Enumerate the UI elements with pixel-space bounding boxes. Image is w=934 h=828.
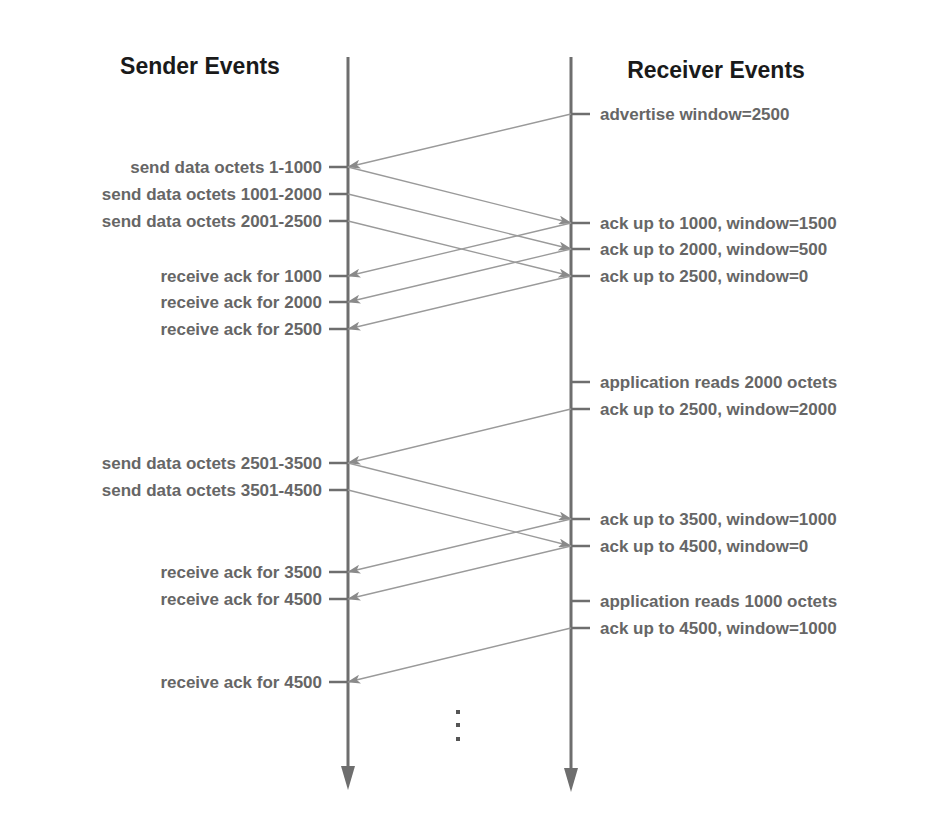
sender-event-label: send data octets 3501-4500 — [102, 481, 322, 500]
ack-arrow — [348, 409, 571, 463]
receiver-event-label: ack up to 3500, window=1000 — [600, 510, 837, 529]
receiver-event-label: application reads 2000 octets — [600, 373, 837, 392]
sender-event-label: receive ack for 2000 — [160, 293, 322, 312]
sender-event-label: send data octets 1-1000 — [130, 158, 322, 177]
ack-arrow — [348, 114, 571, 167]
ack-arrow — [348, 628, 571, 682]
sender-event-label: send data octets 2001-2500 — [102, 212, 322, 231]
ack-arrow — [348, 276, 571, 329]
receiver-event-label: ack up to 1000, window=1500 — [600, 214, 837, 233]
sender-event-label: receive ack for 4500 — [160, 590, 322, 609]
receiver-event-label: ack up to 4500, window=1000 — [600, 619, 837, 638]
receiver-event-label: ack up to 2500, window=0 — [600, 267, 808, 286]
message-lines — [348, 114, 571, 682]
sender-event-label: receive ack for 4500 — [160, 673, 322, 692]
data-segment-arrow — [348, 463, 571, 519]
sender-event-label: receive ack for 1000 — [160, 267, 322, 286]
receiver-timeline — [564, 57, 578, 792]
sender-event-label: receive ack for 2500 — [160, 320, 322, 339]
receiver-event-label: advertise window=2500 — [600, 105, 789, 124]
data-segment-arrow — [348, 194, 571, 249]
ack-arrow — [348, 519, 571, 572]
receiver-event-labels: advertise window=2500ack up to 1000, win… — [600, 105, 837, 638]
sender-event-labels: send data octets 1-1000send data octets … — [102, 158, 322, 692]
receiver-events-title: Receiver Events — [627, 57, 805, 83]
receiver-timeline-arrowhead-icon — [564, 768, 578, 792]
ack-arrow — [348, 546, 571, 599]
ack-arrow — [348, 249, 571, 302]
sender-event-label: receive ack for 3500 — [160, 563, 322, 582]
receiver-event-label: ack up to 4500, window=0 — [600, 537, 808, 556]
receiver-event-label: ack up to 2000, window=500 — [600, 240, 827, 259]
sender-event-label: send data octets 1001-2000 — [102, 185, 322, 204]
data-segment-arrow — [348, 490, 571, 546]
data-segment-arrow — [348, 167, 571, 223]
ellipsis-continuation-icon — [456, 710, 460, 741]
receiver-event-ticks — [571, 114, 590, 628]
sender-timeline-arrowhead-icon — [341, 766, 355, 790]
sender-events-title: Sender Events — [120, 53, 280, 79]
sender-event-ticks — [329, 167, 348, 682]
receiver-event-label: ack up to 2500, window=2000 — [600, 400, 837, 419]
sender-event-label: send data octets 2501-3500 — [102, 454, 322, 473]
tcp-sliding-window-diagram: Sender Events Receiver Events send data … — [0, 0, 934, 828]
receiver-event-label: application reads 1000 octets — [600, 592, 837, 611]
